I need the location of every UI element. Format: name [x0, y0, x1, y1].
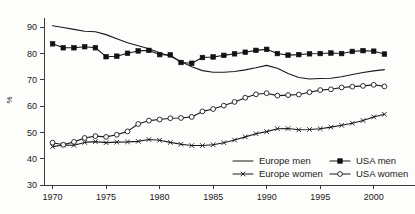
line-chart: 30405060708090 1970197519801985199019952…: [0, 0, 415, 214]
series-group: [50, 26, 387, 149]
legend-label: Europe women: [259, 168, 323, 179]
x-axis-tick-labels: 1970197519801985199019952000: [43, 192, 384, 202]
y-tick-label: 30: [27, 180, 37, 190]
legend-label: USA women: [356, 168, 408, 179]
chart-container: 30405060708090 1970197519801985199019952…: [0, 0, 415, 214]
x-tick-label: 1990: [257, 192, 277, 202]
series-markers: [50, 82, 387, 147]
series-europe-women: [50, 112, 386, 149]
series-usa-men: [50, 42, 386, 66]
y-tick-label: 90: [27, 22, 37, 32]
series-usa-women: [50, 82, 387, 147]
y-tick-label: 40: [27, 154, 37, 164]
chart-legend: Europe menUSA menEurope womenUSA women: [233, 155, 408, 179]
x-tick-label: 1975: [96, 192, 116, 202]
legend-item-usa-men[interactable]: USA men: [330, 155, 396, 166]
y-tick-label: 50: [27, 128, 37, 138]
x-tick-label: 1970: [43, 192, 63, 202]
x-tick-label: 1995: [310, 192, 330, 202]
legend-item-usa-women[interactable]: USA women: [330, 168, 408, 179]
y-axis-title: %: [5, 96, 14, 103]
y-tick-label: 80: [27, 49, 37, 59]
legend-item-europe-women[interactable]: Europe women: [233, 168, 323, 179]
x-tick-label: 1985: [203, 192, 223, 202]
legend-label: Europe men: [259, 155, 311, 166]
y-tick-label: 60: [27, 101, 37, 111]
legend-item-europe-men[interactable]: Europe men: [233, 155, 311, 166]
x-tick-label: 1980: [150, 192, 170, 202]
y-tick-label: 70: [27, 75, 37, 85]
legend-label: USA men: [356, 155, 396, 166]
x-tick-label: 2000: [364, 192, 384, 202]
series-europe-men: [53, 26, 385, 79]
y-axis-tick-labels: 30405060708090: [27, 22, 37, 190]
